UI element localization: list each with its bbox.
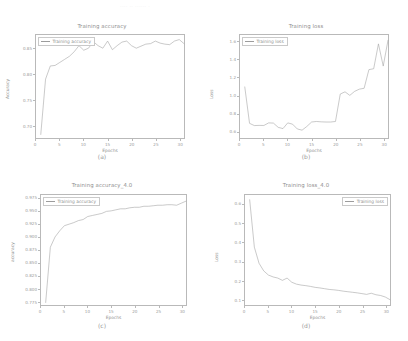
y-tick-mark — [38, 276, 40, 277]
y-tick-label: 0.875 — [14, 247, 37, 252]
y-axis-label: Loss — [209, 89, 214, 99]
y-tick-label: 0.925 — [14, 221, 37, 226]
x-tick-label: 10 — [79, 309, 95, 314]
x-tick-mark — [360, 139, 361, 141]
legend-label: Training accuracy — [53, 39, 92, 44]
x-tick-mark — [287, 139, 288, 141]
x-tick-label: 25 — [355, 309, 371, 314]
y-tick-mark — [38, 211, 40, 212]
x-tick-label: 15 — [307, 309, 323, 314]
x-tick-mark — [291, 306, 292, 308]
y-tick-label: 0.1 — [218, 298, 241, 303]
x-tick-label: 10 — [283, 309, 299, 314]
data-line — [250, 200, 390, 300]
y-tick-label: 1.4 — [213, 57, 236, 62]
y-tick-label: 0.4 — [218, 240, 241, 245]
x-tick-label: 30 — [172, 142, 188, 147]
x-tick-label: 30 — [174, 309, 190, 314]
x-tick-label: 25 — [148, 142, 164, 147]
x-tick-mark — [132, 139, 133, 141]
x-tick-label: 15 — [304, 142, 320, 147]
x-axis-label: Epochs — [40, 315, 187, 320]
x-tick-mark — [363, 306, 364, 308]
x-tick-label: 30 — [376, 142, 392, 147]
y-axis-label: Accuracy — [5, 78, 10, 98]
legend-label: Training loss — [357, 199, 384, 204]
y-tick-mark — [237, 59, 239, 60]
y-axis-label: accuracy — [10, 242, 15, 262]
legend-label: Training loss — [257, 39, 284, 44]
x-tick-mark — [159, 306, 160, 308]
x-tick-label: 20 — [331, 309, 347, 314]
x-tick-label: 10 — [75, 142, 91, 147]
legend-line-swatch — [245, 41, 254, 42]
y-tick-label: 1.0 — [213, 93, 236, 98]
data-line — [245, 40, 388, 130]
chart-legend[interactable]: Training accuracy — [43, 197, 100, 206]
panel-caption: (d) — [204, 322, 408, 329]
y-tick-label: 1.2 — [213, 75, 236, 80]
x-tick-mark — [156, 139, 157, 141]
x-tick-mark — [263, 139, 264, 141]
y-tick-mark — [38, 224, 40, 225]
chart-title: Training loss — [204, 23, 408, 29]
x-tick-label: 20 — [127, 309, 143, 314]
chart-title: Training accuracy — [0, 23, 204, 29]
x-tick-label: 0 — [27, 142, 43, 147]
x-tick-label: 15 — [100, 142, 116, 147]
chart-legend[interactable]: Training accuracy — [38, 37, 95, 46]
chart-legend[interactable]: Training loss — [342, 197, 388, 206]
data-line — [41, 40, 184, 135]
panel-b: Training loss0.60.81.01.21.41.6051015202… — [204, 12, 408, 170]
y-tick-mark — [33, 100, 35, 101]
y-tick-mark — [237, 96, 239, 97]
x-tick-mark — [83, 139, 84, 141]
panel-c-cell: Training accuracy_4.00.7750.8000.8250.85… — [0, 170, 204, 341]
legend-line-swatch — [46, 201, 55, 202]
series-layer — [36, 35, 184, 138]
plot-area — [40, 194, 187, 306]
legend-label: Training accuracy — [58, 199, 97, 204]
x-tick-label: 0 — [32, 309, 48, 314]
x-tick-mark — [336, 139, 337, 141]
x-tick-mark — [135, 306, 136, 308]
chart-legend[interactable]: Training loss — [242, 37, 288, 46]
x-tick-label: 5 — [51, 142, 67, 147]
y-tick-label: 0.900 — [14, 234, 37, 239]
x-tick-label: 5 — [260, 309, 276, 314]
y-tick-label: 0.75 — [9, 98, 32, 103]
chart-title: Training loss_4.0 — [204, 182, 408, 188]
x-tick-mark — [64, 306, 65, 308]
y-tick-mark — [38, 302, 40, 303]
y-tick-label: 0.2 — [218, 279, 241, 284]
y-tick-label: 0.5 — [218, 221, 241, 226]
x-tick-mark — [87, 306, 88, 308]
y-tick-label: 1.6 — [213, 39, 236, 44]
y-tick-mark — [237, 114, 239, 115]
x-tick-mark — [59, 139, 60, 141]
y-tick-mark — [242, 204, 244, 205]
y-tick-mark — [237, 77, 239, 78]
panel-caption: (b) — [204, 153, 408, 160]
series-layer — [41, 195, 186, 305]
plot-area — [35, 34, 185, 139]
x-tick-label: 25 — [352, 142, 368, 147]
panel-a-cell: Training accuracy0.700.750.800.850510152… — [0, 12, 204, 170]
y-tick-mark — [242, 281, 244, 282]
panel-d: Training loss_4.00.10.20.30.40.50.605101… — [204, 170, 408, 341]
top-ghost-strip: .... .. ...... . — [0, 0, 408, 12]
y-tick-label: 0.6 — [218, 201, 241, 206]
y-tick-mark — [33, 74, 35, 75]
y-tick-mark — [38, 263, 40, 264]
y-tick-label: 0.975 — [14, 195, 37, 200]
y-tick-label: 0.800 — [14, 287, 37, 292]
panel-c: Training accuracy_4.00.7750.8000.8250.85… — [0, 170, 204, 341]
x-tick-mark — [239, 139, 240, 141]
y-tick-label: 0.6 — [213, 129, 236, 134]
figure-grid: Training accuracy0.700.750.800.850510152… — [0, 12, 408, 341]
y-tick-label: 0.850 — [14, 260, 37, 265]
x-tick-mark — [108, 139, 109, 141]
panel-b-cell: Training loss0.60.81.01.21.41.6051015202… — [204, 12, 408, 170]
x-tick-mark — [35, 139, 36, 141]
x-tick-mark — [244, 306, 245, 308]
